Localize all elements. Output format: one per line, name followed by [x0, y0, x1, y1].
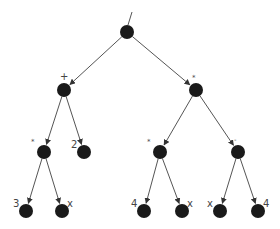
tree-node: x [207, 198, 227, 218]
tree-edge [70, 37, 122, 85]
node-label: 4 [263, 198, 269, 209]
tree-edges [28, 12, 255, 204]
tree-node: x [175, 198, 193, 218]
node-circle [213, 204, 227, 218]
tree-edge [66, 97, 81, 145]
tree-node: x [55, 198, 73, 218]
node-circle [19, 204, 33, 218]
node-label: x [67, 198, 73, 209]
node-label: 3 [13, 198, 19, 209]
node-label: x [187, 198, 193, 209]
tree-nodes: +**2*-3x4xx4 [13, 25, 269, 218]
tree-edge [46, 97, 61, 145]
tree-node: 4 [131, 198, 151, 218]
root-stub-line [128, 12, 132, 25]
node-circle [137, 204, 151, 218]
node-circle [189, 83, 203, 97]
node-circle [77, 145, 91, 159]
tree-node: - [231, 136, 245, 159]
tree-edge [222, 159, 236, 204]
tree-node [120, 25, 134, 39]
node-label: * [192, 74, 196, 82]
tree-edge [28, 159, 42, 204]
node-label: - [234, 136, 237, 144]
tree-node: * [189, 74, 203, 97]
tree-edge [240, 159, 255, 204]
node-label: 4 [131, 198, 137, 209]
tree-node: 3 [13, 198, 33, 218]
tree-edge [200, 96, 234, 146]
tree-node: * [147, 138, 167, 159]
node-circle [37, 145, 51, 159]
node-circle [120, 25, 134, 39]
tree-edge [146, 159, 158, 204]
tree-node: 4 [251, 198, 269, 218]
node-label: 2 [71, 139, 77, 150]
node-label: x [207, 198, 213, 209]
tree-edge [46, 159, 60, 204]
node-circle [231, 145, 245, 159]
node-label: * [147, 138, 151, 146]
node-circle [57, 83, 71, 97]
tree-edge [162, 159, 179, 204]
tree-node: + [57, 71, 71, 97]
expression-tree-diagram: +**2*-3x4xx4 [0, 0, 280, 229]
node-circle [153, 145, 167, 159]
node-label: + [60, 71, 68, 82]
tree-edge [132, 37, 190, 85]
node-label: * [31, 138, 35, 146]
tree-edge [164, 96, 192, 145]
